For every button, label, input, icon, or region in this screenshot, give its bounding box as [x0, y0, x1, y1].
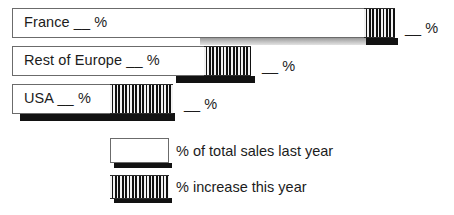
legend-sales-swatch [110, 138, 169, 163]
usa-increase-value-label: __ % [184, 96, 217, 112]
rest-of-europe-row-label: Rest of Europe __ % [24, 52, 160, 68]
rest-of-europe-increase-segment[interactable] [204, 46, 251, 76]
legend-increase-label: % increase this year [176, 179, 307, 195]
rest-of-europe-bar-shadow [176, 76, 255, 83]
legend-sales-swatch-shadow [114, 163, 172, 168]
rest-of-europe-increase-value-label: __ % [262, 58, 295, 74]
chart-canvas: France __ % __ % Rest of Europe __ % __ … [0, 0, 454, 215]
france-bar-shadow [366, 38, 398, 45]
legend-sales-label: % of total sales last year [176, 143, 333, 159]
france-row-label: France __ % [24, 14, 107, 30]
usa-row-label: USA __ % [24, 90, 91, 106]
legend-increase-swatch [110, 175, 169, 199]
usa-increase-segment[interactable] [110, 84, 173, 114]
usa-bar-shadow [20, 113, 175, 121]
france-increase-segment[interactable] [364, 8, 395, 38]
france-increase-value-label: __ % [405, 20, 438, 36]
